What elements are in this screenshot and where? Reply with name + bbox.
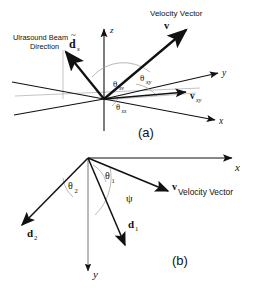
beam2-symbol: d bbox=[27, 227, 33, 239]
beam1-symbol: d bbox=[128, 218, 134, 230]
angle-theta1-symbol: θ bbox=[105, 170, 110, 181]
panel-a-diagram: Ulrasound Beam Direction ~ d s Velocity … bbox=[0, 0, 256, 148]
angle-theta2-symbol: θ bbox=[68, 180, 73, 191]
velocity-symbol-b: v bbox=[172, 181, 177, 192]
angle-psi-symbol: ψ bbox=[126, 193, 133, 204]
angle-sv-symbol: θ bbox=[113, 79, 117, 89]
angle-theta1-subscript: 1 bbox=[112, 177, 115, 184]
angle-theta2-subscript: 2 bbox=[75, 187, 78, 194]
beam-symbol: d bbox=[69, 37, 76, 51]
angle-xx-symbol: θ bbox=[116, 102, 120, 112]
ultrasound-beam-vector bbox=[66, 52, 104, 99]
beam1-subscript: 1 bbox=[135, 225, 138, 232]
velocity-projection-vector bbox=[104, 92, 186, 99]
panel-b-diagram: x y θ 2 θ 1 ψ v Velocity Vector d 1 d 2 … bbox=[0, 145, 256, 295]
beam2-subscript: 2 bbox=[34, 234, 38, 241]
angle-xy-symbol: θ bbox=[140, 73, 144, 83]
angle-xy-subscript: xy bbox=[145, 79, 152, 85]
y-axis-label: y bbox=[221, 68, 227, 78]
beam-label-line2: Direction bbox=[30, 42, 59, 51]
figure-container: Ulrasound Beam Direction ~ d s Velocity … bbox=[0, 0, 256, 295]
velocity-label-b: Velocity Vector bbox=[178, 187, 233, 197]
axis-negative-extensions bbox=[12, 82, 104, 115]
z-axis-label: z bbox=[109, 25, 114, 35]
x-axis-label: x bbox=[218, 116, 224, 126]
beam-symbol-subscript: s bbox=[77, 45, 80, 53]
y-axis-label-b: y bbox=[92, 268, 98, 280]
x-axis-label-b: x bbox=[234, 161, 240, 173]
angle-xx-subscript: xx bbox=[121, 108, 127, 114]
velocity-projection-symbol: v bbox=[190, 91, 195, 101]
panel-b-caption: (b) bbox=[172, 253, 188, 268]
velocity-label-a: Velocity Vector bbox=[150, 9, 203, 18]
angle-sv-subscript: sv bbox=[119, 85, 124, 91]
velocity-projection-subscript: xy bbox=[195, 97, 202, 103]
panel-a-caption: (a) bbox=[138, 125, 154, 140]
velocity-symbol-a: v bbox=[164, 20, 170, 31]
beam2-vector bbox=[22, 158, 88, 225]
